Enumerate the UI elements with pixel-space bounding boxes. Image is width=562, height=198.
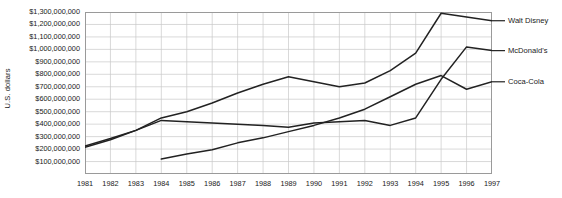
series-line	[161, 76, 492, 160]
x-axis-tick-label: 1984	[153, 179, 169, 188]
y-axis-tick-label: $300,000,000	[35, 133, 80, 141]
y-axis-tick-label: $700,000,000	[35, 83, 80, 91]
x-axis-tick-label: 1985	[179, 179, 195, 188]
x-axis-tick-label: 1989	[280, 179, 296, 188]
y-axis-tick-label: $900,000,000	[35, 58, 80, 66]
series-label-coca-cola: Coca-Cola	[508, 77, 544, 86]
x-axis-tick-labels: 1981198219831984198519861987198819891990…	[0, 176, 562, 198]
y-axis-tick-label: $1,100,000,000	[29, 33, 80, 41]
x-axis-tick-label: 1982	[102, 179, 118, 188]
y-axis-tick-labels: $1,300,000,000$1,200,000,000$1,100,000,0…	[16, 0, 82, 176]
x-axis-tick-label: 1995	[433, 179, 449, 188]
x-axis-tick-label: 1981	[77, 179, 93, 188]
y-axis-tick-label: $1,200,000,000	[29, 20, 80, 28]
x-axis-tick-label: 1997	[484, 179, 500, 188]
x-axis-tick-label: 1992	[357, 179, 373, 188]
x-axis-tick-label: 1990	[306, 179, 322, 188]
x-axis-tick-label: 1987	[230, 179, 246, 188]
y-axis-tick-label: $1,000,000,000	[29, 45, 80, 53]
series-label-walt-disney: Walt Disney	[508, 16, 548, 25]
series-label-mcdonald-s: McDonald's	[508, 46, 547, 55]
plot-area	[85, 12, 492, 174]
grid-lines	[85, 12, 492, 174]
x-axis-tick-label: 1986	[204, 179, 220, 188]
x-axis-tick-label: 1991	[331, 179, 347, 188]
y-axis-tick-label: $600,000,000	[35, 95, 80, 103]
line-chart: U.S. dollars $1,300,000,000$1,200,000,00…	[0, 0, 562, 198]
y-axis-tick-label: $500,000,000	[35, 108, 80, 116]
x-axis-tick-label: 1994	[408, 179, 424, 188]
y-axis-tick-label: $100,000,000	[35, 158, 80, 166]
plot-svg	[85, 12, 492, 174]
y-axis-tick-label: $200,000,000	[35, 145, 80, 153]
y-axis-tick-label: $400,000,000	[35, 120, 80, 128]
y-axis-title-text: U.S. dollars	[4, 68, 13, 108]
x-axis-tick-label: 1983	[128, 179, 144, 188]
y-axis-tick-label: $800,000,000	[35, 70, 80, 78]
x-axis-tick-label: 1993	[382, 179, 398, 188]
x-axis-tick-label: 1988	[255, 179, 271, 188]
x-axis-tick-label: 1996	[458, 179, 474, 188]
y-axis-tick-label: $1,300,000,000	[29, 8, 80, 16]
y-axis-title: U.S. dollars	[0, 0, 16, 176]
